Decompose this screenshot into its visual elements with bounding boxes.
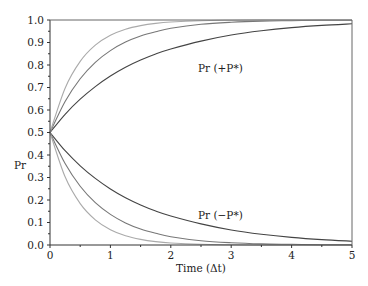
series-line-0 <box>50 24 352 133</box>
y-axis-label: Pr <box>14 159 27 171</box>
x-tick-label: 2 <box>167 249 174 261</box>
series-line-5 <box>50 133 352 246</box>
x-tick-label: 0 <box>47 249 54 261</box>
y-tick-label: 1.0 <box>27 14 44 26</box>
y-tick-label: 0.7 <box>27 81 44 93</box>
y-tick-label: 0.2 <box>27 194 44 206</box>
y-tick-label: 0.1 <box>27 216 44 228</box>
annotation-plus: Pr (+P*) <box>198 62 243 74</box>
y-tick-label: 0.8 <box>27 59 44 71</box>
y-tick-label: 0.3 <box>27 171 44 183</box>
y-tick-label: 0.9 <box>27 36 44 48</box>
annotation-minus: Pr (−P*) <box>198 209 243 221</box>
series-line-3 <box>50 133 352 242</box>
y-tick-label: 0.5 <box>27 126 44 138</box>
x-tick-label: 4 <box>288 249 295 261</box>
x-tick-label: 5 <box>349 249 356 261</box>
x-tick-label: 3 <box>228 249 235 261</box>
x-axis-label: Time (Δt) <box>176 262 226 274</box>
y-tick-label: 0.6 <box>27 104 44 116</box>
series-line-4 <box>50 133 352 245</box>
y-tick-label: 0.4 <box>27 149 44 161</box>
series-line-1 <box>50 20 352 132</box>
series-line-2 <box>50 20 352 133</box>
x-tick-label: 1 <box>107 249 114 261</box>
y-tick-label: 0.0 <box>27 239 44 251</box>
chart: 0.00.10.20.30.40.50.60.70.80.91.0012345 … <box>0 0 368 286</box>
